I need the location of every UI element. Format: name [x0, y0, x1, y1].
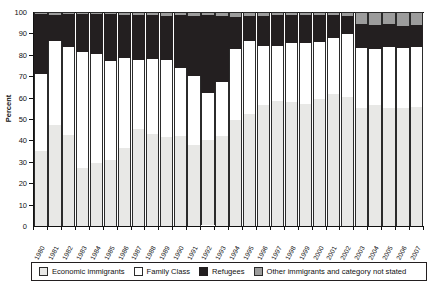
bar-1998 — [285, 12, 298, 226]
bar-segment-refugees — [76, 14, 89, 51]
x-tick-mark — [353, 227, 354, 230]
legend-swatch-refugees — [199, 267, 208, 276]
bar-segment-other-immigrants-and-category-not-stated — [396, 12, 409, 26]
x-tick-label-1991: 1991 — [186, 245, 199, 261]
bar-segment-family-class — [132, 60, 145, 128]
x-tick-label-1982: 1982 — [61, 245, 74, 261]
x-tick-mark — [367, 227, 368, 230]
bar-segment-economic-immigrants — [76, 168, 89, 226]
bar-1981 — [48, 12, 61, 226]
x-tick-mark — [47, 227, 48, 230]
bar-segment-refugees — [174, 15, 187, 67]
bar-1987 — [132, 12, 145, 226]
bar-segment-family-class — [48, 41, 61, 126]
bar-2004 — [368, 12, 381, 226]
bar-segment-economic-immigrants — [299, 104, 312, 226]
bar-2007 — [410, 12, 423, 226]
bar-segment-economic-immigrants — [187, 145, 200, 226]
x-tick-mark — [75, 227, 76, 230]
bar-segment-refugees — [410, 25, 423, 47]
bar-segment-family-class — [34, 74, 47, 151]
bar-segment-refugees — [299, 15, 312, 43]
bar-segment-family-class — [76, 52, 89, 169]
bar-1990 — [174, 12, 187, 226]
legend-item-refugees[interactable]: Refugees — [199, 267, 245, 276]
bar-1996 — [257, 12, 270, 226]
legend-item-family[interactable]: Family Class — [134, 267, 190, 276]
bar-segment-family-class — [215, 82, 228, 137]
bar-segment-refugees — [382, 24, 395, 48]
y-tick-label: 20 — [19, 179, 27, 188]
bar-2006 — [396, 12, 409, 226]
bar-segment-economic-immigrants — [90, 163, 103, 226]
bar-segment-refugees — [341, 16, 354, 34]
bar-1989 — [160, 12, 173, 226]
y-axis-ticks: 0102030405060708090100 — [0, 0, 33, 291]
bar-1997 — [271, 12, 284, 226]
bar-segment-family-class — [271, 46, 284, 101]
bar-segment-other-immigrants-and-category-not-stated — [410, 12, 423, 25]
legend-label-family: Family Class — [147, 267, 190, 276]
x-tick-label-1987: 1987 — [130, 245, 143, 261]
bars-container — [34, 12, 424, 226]
legend-label-economic: Economic immigrants — [52, 267, 125, 276]
bar-segment-economic-immigrants — [160, 137, 173, 226]
y-tick-label: 0 — [23, 222, 27, 231]
x-tick-label-2001: 2001 — [325, 245, 338, 261]
x-tick-label-1981: 1981 — [47, 245, 60, 261]
bar-1993 — [215, 12, 228, 226]
bar-segment-family-class — [410, 47, 423, 107]
bar-segment-refugees — [201, 15, 214, 93]
bar-segment-other-immigrants-and-category-not-stated — [355, 12, 368, 24]
bar-segment-refugees — [146, 15, 159, 59]
x-tick-mark — [423, 227, 424, 230]
bar-segment-family-class — [229, 49, 242, 120]
x-tick-label-1980: 1980 — [33, 245, 46, 261]
bar-segment-refugees — [257, 16, 270, 46]
bar-segment-refugees — [313, 15, 326, 42]
bar-segment-family-class — [90, 54, 103, 163]
x-tick-mark — [158, 227, 159, 230]
bar-segment-family-class — [257, 46, 270, 105]
legend-item-economic[interactable]: Economic immigrants — [39, 267, 125, 276]
bar-segment-economic-immigrants — [62, 135, 75, 226]
bar-segment-economic-immigrants — [229, 120, 242, 226]
bar-segment-economic-immigrants — [174, 136, 187, 226]
bar-segment-refugees — [34, 14, 47, 74]
legend-swatch-family — [134, 267, 143, 276]
x-tick-label-1985: 1985 — [102, 245, 115, 261]
bar-1999 — [299, 12, 312, 226]
plot-area — [33, 12, 424, 227]
y-tick-label: 40 — [19, 136, 27, 145]
y-tick-label: 50 — [19, 115, 27, 124]
x-tick-label-1986: 1986 — [116, 245, 129, 261]
bar-segment-family-class — [382, 47, 395, 108]
x-tick-mark — [103, 227, 104, 230]
bar-segment-economic-immigrants — [382, 108, 395, 226]
bar-2001 — [327, 12, 340, 226]
x-tick-label-1993: 1993 — [214, 245, 227, 261]
x-tick-label-1994: 1994 — [228, 245, 241, 261]
bar-segment-refugees — [229, 17, 242, 49]
bar-segment-refugees — [104, 14, 117, 61]
bar-segment-refugees — [327, 15, 340, 37]
bar-segment-economic-immigrants — [271, 101, 284, 226]
bar-segment-economic-immigrants — [396, 108, 409, 226]
x-tick-label-1992: 1992 — [200, 245, 213, 261]
bar-segment-other-immigrants-and-category-not-stated — [382, 12, 395, 24]
bar-segment-refugees — [285, 15, 298, 43]
bar-segment-family-class — [174, 68, 187, 136]
bar-segment-economic-immigrants — [48, 125, 61, 226]
legend-item-other[interactable]: Other immigrants and category not stated — [254, 267, 407, 276]
y-tick-label: 10 — [19, 200, 27, 209]
x-tick-mark — [186, 227, 187, 230]
bar-segment-economic-immigrants — [313, 99, 326, 226]
bar-segment-refugees — [271, 15, 284, 46]
bar-segment-refugees — [118, 15, 131, 58]
x-tick-mark — [381, 227, 382, 230]
bar-segment-refugees — [62, 14, 75, 47]
bar-segment-economic-immigrants — [215, 136, 228, 226]
bar-segment-family-class — [355, 48, 368, 108]
bar-2002 — [341, 12, 354, 226]
bar-segment-economic-immigrants — [368, 105, 381, 226]
